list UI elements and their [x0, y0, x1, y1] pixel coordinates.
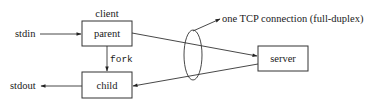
stdin-label: stdin [15, 28, 36, 39]
child-label: child [97, 80, 119, 91]
annotation-arrow [193, 19, 220, 31]
fork-label: fork [110, 54, 133, 65]
server-label: server [270, 53, 296, 64]
child-node: child [82, 72, 132, 98]
parent-node: parent [82, 21, 132, 46]
parent-label: parent [94, 28, 120, 39]
diagram-canvas: client parent child server stdin stdout … [0, 0, 369, 106]
client-label: client [95, 8, 118, 19]
server-to-child-line [133, 64, 258, 86]
tcp-connection-annotation: one TCP connection (full-duplex) [222, 13, 364, 25]
tcp-connection-ellipse [184, 30, 202, 80]
stdout-label: stdout [10, 80, 36, 91]
server-node: server [258, 46, 308, 71]
parent-to-server-line [132, 33, 257, 56]
